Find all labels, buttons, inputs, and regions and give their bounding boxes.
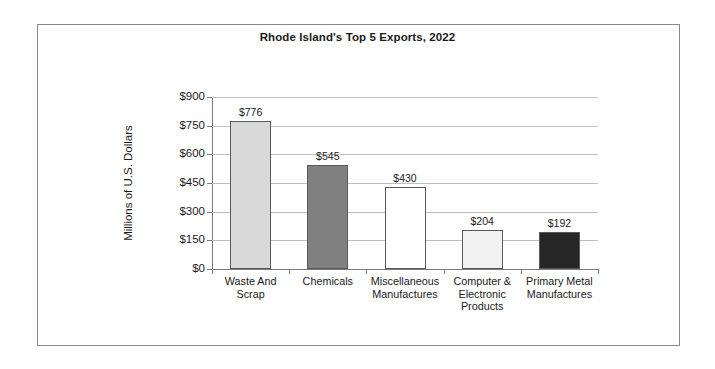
y-axis-tick-mark bbox=[207, 212, 212, 213]
bar[interactable] bbox=[385, 187, 426, 269]
bar-value-label: $192 bbox=[529, 218, 589, 229]
x-axis-tick-mark bbox=[212, 269, 213, 274]
x-axis-category-label-line: Miscellaneous bbox=[362, 275, 447, 288]
x-axis-tick-mark bbox=[289, 269, 290, 274]
x-axis-category-label: Computer &ElectronicProducts bbox=[440, 275, 525, 313]
y-axis-tick-label: $450 bbox=[157, 177, 205, 189]
x-axis-tick-mark bbox=[366, 269, 367, 274]
x-axis-category-label-line: Chemicals bbox=[285, 275, 370, 288]
bar-value-label: $204 bbox=[452, 216, 512, 227]
bar-value-label: $776 bbox=[221, 107, 281, 118]
y-axis-tick-mark bbox=[207, 183, 212, 184]
x-axis-category-label-line: Computer & bbox=[440, 275, 525, 288]
x-axis-category-label: Chemicals bbox=[285, 275, 370, 288]
bar[interactable] bbox=[230, 121, 271, 269]
bar[interactable] bbox=[462, 230, 503, 269]
x-axis-category-label-line: Manufactures bbox=[362, 288, 447, 301]
gridline bbox=[212, 97, 598, 98]
bar-value-label: $545 bbox=[298, 151, 358, 162]
bar[interactable] bbox=[539, 232, 580, 269]
x-axis-category-label-line: Primary Metal bbox=[517, 275, 602, 288]
plot-area: $776$545$430$204$192 bbox=[212, 97, 598, 269]
y-axis-tick-label: $300 bbox=[157, 206, 205, 218]
y-axis-tick-mark bbox=[207, 154, 212, 155]
x-axis-baseline bbox=[212, 269, 598, 270]
x-axis-category-label-line: Products bbox=[440, 300, 525, 313]
x-axis-category-label-line: Scrap bbox=[208, 288, 293, 301]
chart-title: Rhode Island's Top 5 Exports, 2022 bbox=[0, 31, 715, 43]
y-axis-tick-labels: $900$750$600$450$300$150$0 bbox=[155, 97, 205, 269]
y-axis-tick-label: $600 bbox=[157, 148, 205, 160]
y-axis-tick-mark bbox=[207, 97, 212, 98]
y-axis-tick-label: $0 bbox=[157, 263, 205, 275]
x-axis-category-label-line: Electronic bbox=[440, 288, 525, 301]
bar-value-label: $430 bbox=[375, 173, 435, 184]
y-axis-tick-label: $150 bbox=[157, 234, 205, 246]
y-axis-title: Millions of U.S. Dollars bbox=[122, 125, 134, 241]
y-axis-tick-mark bbox=[207, 240, 212, 241]
x-axis-category-label: Primary MetalManufactures bbox=[517, 275, 602, 300]
y-axis-tick-label: $900 bbox=[157, 91, 205, 103]
bar[interactable] bbox=[307, 165, 348, 269]
y-axis-tick-label: $750 bbox=[157, 120, 205, 132]
x-axis-category-label: Waste AndScrap bbox=[208, 275, 293, 300]
x-axis-tick-mark bbox=[444, 269, 445, 274]
x-axis-tick-mark bbox=[598, 269, 599, 274]
x-axis-category-label-line: Waste And bbox=[208, 275, 293, 288]
x-axis-category-label: MiscellaneousManufactures bbox=[362, 275, 447, 300]
x-axis-category-label-line: Manufactures bbox=[517, 288, 602, 301]
y-axis-tick-mark bbox=[207, 126, 212, 127]
x-axis-tick-mark bbox=[521, 269, 522, 274]
